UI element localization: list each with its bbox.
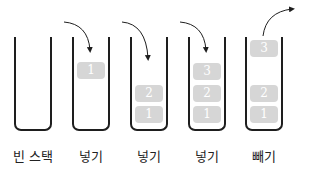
pop-arrow (263, 9, 292, 36)
stack-pop: 3 2 1 (245, 37, 283, 131)
stack-label: 빼기 (234, 146, 294, 165)
stack-block: 2 (193, 85, 221, 102)
stack-block: 1 (250, 106, 278, 123)
stack-empty (14, 37, 52, 131)
stack-label: 빈 스택 (3, 146, 63, 165)
stack-push-1: 1 (72, 37, 110, 131)
stack-block: 2 (250, 85, 278, 102)
stack-push-3: 3 2 1 (188, 37, 226, 131)
stack-block: 1 (193, 106, 221, 123)
stack-label: 넣기 (61, 146, 121, 165)
stack-label: 넣기 (177, 146, 237, 165)
stack-block: 1 (77, 62, 105, 79)
stack-push-2: 2 1 (130, 37, 168, 131)
stack-block: 3 (193, 63, 221, 80)
stack-block: 1 (135, 106, 163, 123)
stack-block: 2 (135, 85, 163, 102)
stack-label: 넣기 (119, 146, 179, 165)
stack-block-popped: 3 (250, 40, 278, 57)
